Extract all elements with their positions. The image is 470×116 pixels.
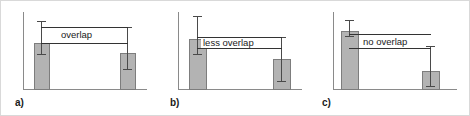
- error-bar-cap-top-group-1: [345, 20, 354, 21]
- error-bar-cap-bottom-group-1: [37, 54, 46, 55]
- annotation-overlap: overlap: [59, 30, 94, 40]
- error-bar-line-group-1: [41, 21, 42, 54]
- bar-group-1: [34, 43, 50, 90]
- bar-group-1: [341, 31, 359, 90]
- y-axis: [23, 12, 24, 90]
- bar-group-2: [120, 53, 136, 90]
- bar-group-2: [422, 71, 440, 90]
- panel-a: overlap a): [1, 1, 156, 116]
- leader-line-upper: [349, 34, 431, 35]
- error-bar-cap-top-group-2: [426, 46, 435, 47]
- error-bar-cap-bottom-group-1: [193, 54, 202, 55]
- error-bar-cap-bottom-group-2: [426, 86, 435, 87]
- error-bar-cap-top-group-1: [37, 21, 46, 22]
- error-bar-cap-bottom-group-1: [345, 36, 354, 37]
- figure-error-bar-overlap: overlap a) less overlap b) no ov: [0, 0, 470, 116]
- annotation-less-overlap: less overlap: [201, 38, 256, 48]
- y-axis: [333, 12, 334, 90]
- error-bar-line-group-2: [430, 46, 431, 86]
- error-bar-line-group-2: [281, 37, 282, 81]
- panel-label-c: c): [322, 98, 331, 108]
- leader-line-lower: [349, 48, 431, 49]
- leader-line-lower: [41, 43, 128, 44]
- panel-label-b: b): [170, 98, 179, 108]
- panel-b: less overlap b): [156, 1, 311, 116]
- error-bar-line-group-2: [127, 27, 128, 69]
- bar-group-2: [273, 59, 291, 90]
- error-bar-cap-bottom-group-2: [123, 69, 132, 70]
- panel-label-a: a): [15, 98, 24, 108]
- error-bar-cap-top-group-1: [193, 16, 202, 17]
- leader-line-lower: [197, 48, 282, 49]
- panel-c: no overlap c): [311, 1, 466, 116]
- y-axis: [178, 12, 179, 90]
- error-bar-cap-bottom-group-2: [277, 81, 286, 82]
- leader-line-upper: [41, 27, 128, 28]
- annotation-no-overlap: no overlap: [361, 37, 409, 47]
